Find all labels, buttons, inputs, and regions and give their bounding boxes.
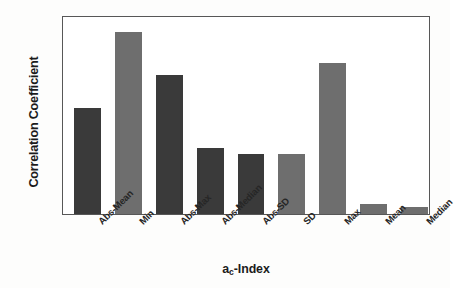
bar[interactable] — [319, 63, 346, 214]
bar[interactable] — [115, 32, 142, 214]
x-axis-title-tail: -Index — [234, 262, 270, 276]
x-axis-title: ac-Index — [62, 262, 430, 276]
bar[interactable] — [74, 108, 101, 214]
x-axis-title-subscript: c — [229, 267, 234, 277]
bar[interactable] — [156, 75, 183, 214]
bar-series — [63, 17, 429, 214]
bar[interactable] — [360, 204, 387, 214]
plot-area — [62, 16, 430, 215]
y-axis-title: Correlation Coefficient — [27, 22, 41, 222]
